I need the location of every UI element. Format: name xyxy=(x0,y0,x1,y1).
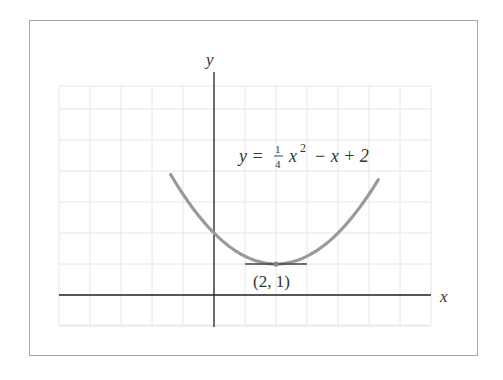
vertex-label: (2, 1) xyxy=(253,272,290,291)
fraction-denominator: 4 xyxy=(275,158,281,170)
equation-term: x xyxy=(288,146,297,166)
fraction-numerator: 1 xyxy=(275,143,281,155)
parabola-plot: y x y = 1 4 x 2 − x + 2 (2, 1) xyxy=(0,0,503,380)
vertex-point xyxy=(273,261,278,266)
x-axis-label: x xyxy=(439,287,448,306)
grid xyxy=(59,86,431,326)
parabola-curve xyxy=(171,174,379,264)
equation-label: y = 1 4 x 2 − x + 2 xyxy=(237,141,369,170)
equation-rest: − x + 2 xyxy=(314,146,369,166)
equation-lhs: y = xyxy=(237,146,264,166)
y-axis-label: y xyxy=(204,50,214,69)
equation-exponent: 2 xyxy=(300,141,306,155)
